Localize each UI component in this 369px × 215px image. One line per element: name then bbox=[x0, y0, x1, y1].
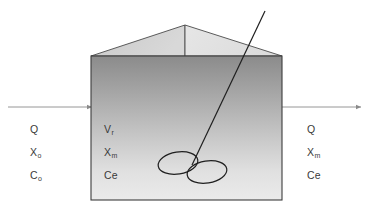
reactor-volume-subscript: r bbox=[112, 129, 115, 136]
tank-body bbox=[91, 56, 282, 200]
reactor-mixed-solids-label: Xm bbox=[104, 147, 117, 158]
diagram-canvas: Q Xo Co Vr Xm Ce Q Xm Ce bbox=[0, 0, 369, 215]
effluent-solids-subscript: m bbox=[315, 152, 321, 159]
tank-vessel-icon bbox=[91, 56, 282, 200]
influent-solids-subscript: o bbox=[38, 152, 42, 159]
effluent-flow-label: Q bbox=[307, 124, 315, 135]
influent-flow-label: Q bbox=[30, 124, 38, 135]
influent-substrate-subscript: o bbox=[38, 175, 42, 182]
roof-left-face bbox=[91, 25, 185, 56]
tank-roof-icon bbox=[91, 25, 282, 56]
roof-right-face bbox=[185, 25, 282, 56]
reactor-effluent-conc-label: Ce bbox=[104, 170, 118, 181]
reactor-volume-label: Vr bbox=[104, 124, 114, 135]
reactor-diagram bbox=[0, 0, 369, 215]
reactor-mixed-solids-subscript: m bbox=[112, 152, 118, 159]
influent-solids-label: Xo bbox=[30, 147, 41, 158]
influent-substrate-label: Co bbox=[30, 170, 42, 181]
effluent-substrate-label: Ce bbox=[307, 170, 321, 181]
effluent-solids-label: Xm bbox=[307, 147, 320, 158]
